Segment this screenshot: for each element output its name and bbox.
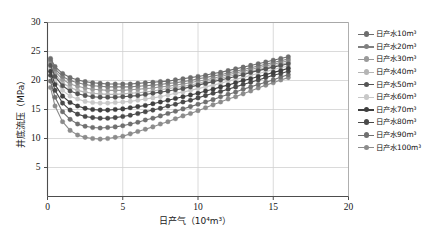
legend-marker-icon (358, 130, 374, 140)
legend-item[interactable]: 日产水100m³ (358, 141, 444, 154)
legend-item-label: 日产水10m³ (376, 29, 417, 39)
legend-item[interactable]: 日产水60m³ (358, 91, 444, 104)
legend-item[interactable]: 日产水40m³ (358, 66, 444, 79)
y-tick-label: 25 (0, 46, 41, 56)
legend-item-label: 日产水70m³ (376, 105, 417, 115)
legend-item[interactable]: 日产水90m³ (358, 129, 444, 142)
legend-item[interactable]: 日产水20m³ (358, 41, 444, 54)
y-tick-label: 10 (0, 133, 41, 143)
x-tick-label: 10 (178, 202, 218, 212)
y-tick-label: 20 (0, 75, 41, 85)
legend-item-label: 日产水50m³ (376, 80, 417, 90)
y-tick-label: 30 (0, 17, 41, 27)
legend-item[interactable]: 日产水70m³ (358, 104, 444, 117)
legend-marker-icon (358, 117, 374, 127)
legend-item-label: 日产水30m³ (376, 54, 417, 64)
legend-marker-icon (358, 67, 374, 77)
chart-legend: 日产水10m³日产水20m³日产水30m³日产水40m³日产水50m³日产水60… (358, 28, 444, 154)
x-tick-label: 15 (253, 202, 293, 212)
x-tick-label: 0 (28, 202, 68, 212)
legend-item-label: 日产水60m³ (376, 92, 417, 102)
legend-marker-icon (358, 29, 374, 39)
x-axis-title: 日产气（10⁴m³） (0, 214, 390, 227)
x-tick-label: 20 (329, 202, 369, 212)
legend-marker-icon (358, 92, 374, 102)
legend-item[interactable]: 日产水30m³ (358, 53, 444, 66)
legend-marker-icon (358, 42, 374, 52)
legend-item-label: 日产水90m³ (376, 130, 417, 140)
y-tick-label: 5 (0, 162, 41, 172)
legend-item-label: 日产水20m³ (376, 42, 417, 52)
legend-item-label: 日产水40m³ (376, 67, 417, 77)
legend-item[interactable]: 日产水80m³ (358, 116, 444, 129)
legend-marker-icon (358, 80, 374, 90)
legend-item-label: 日产水100m³ (376, 143, 421, 153)
legend-marker-icon (358, 54, 374, 64)
legend-item[interactable]: 日产水50m³ (358, 78, 444, 91)
legend-marker-icon (358, 105, 374, 115)
legend-item-label: 日产水80m³ (376, 117, 417, 127)
legend-marker-icon (358, 143, 374, 153)
x-tick-label: 5 (103, 202, 143, 212)
legend-item[interactable]: 日产水10m³ (358, 28, 444, 41)
y-tick-label: 15 (0, 104, 41, 114)
